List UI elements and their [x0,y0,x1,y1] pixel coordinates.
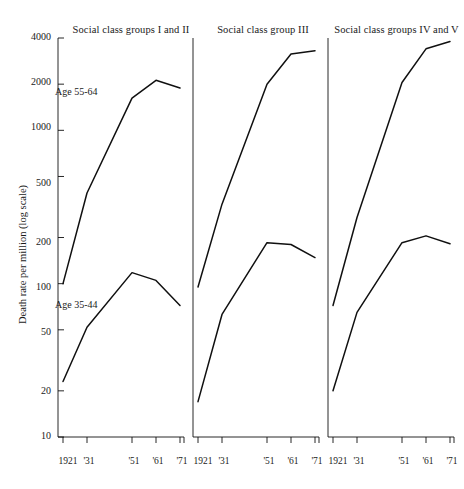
series-line [198,243,315,402]
series-line [63,80,180,283]
series-line [63,273,180,382]
series-line [198,51,315,287]
chart-figure: Social class groups I and II Social clas… [0,0,464,489]
series-line [333,41,450,305]
series-line [333,236,450,391]
plot-canvas [0,0,464,489]
